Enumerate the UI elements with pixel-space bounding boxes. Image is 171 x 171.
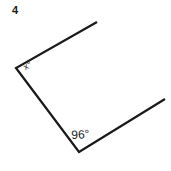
angle-polyline xyxy=(16,22,165,152)
polyline-diagram xyxy=(0,0,171,171)
problem-number: 4 xyxy=(12,4,18,16)
angle-label-96: 96° xyxy=(71,128,90,141)
geometry-figure: 4 x° 96° xyxy=(0,0,171,171)
